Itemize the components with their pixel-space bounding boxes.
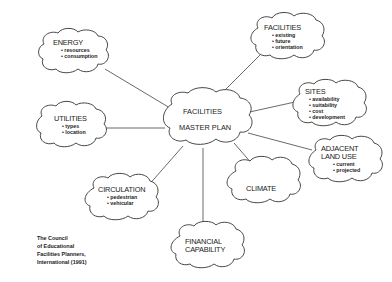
node-energy: ENERGY resources consumption: [53, 39, 98, 59]
center-title-line1: FACILITIES: [183, 107, 222, 116]
list-item: consumption: [61, 53, 98, 59]
link-energy: [105, 69, 170, 108]
node-energy-items: resources consumption: [53, 47, 98, 59]
list-item: location: [62, 129, 87, 135]
link-circulation: [147, 146, 183, 187]
node-adjacent-items: current projected: [321, 161, 360, 173]
node-utilities: UTILITIES types location: [54, 115, 87, 135]
node-utilities-items: types location: [54, 123, 87, 135]
list-item: orientation: [272, 44, 303, 50]
node-circulation: CIRCULATION pedestrian vehicular: [98, 186, 145, 206]
node-financial-capability: FINANCIAL CAPABILITY: [185, 238, 225, 254]
node-utilities-title: UTILITIES: [54, 115, 87, 123]
link-adjacent: [248, 133, 312, 150]
node-facilities: FACILITIES existing future orientation: [264, 24, 303, 50]
list-item: development: [309, 114, 345, 120]
node-sites-title: SITES: [305, 88, 345, 96]
source-credit: The Council of Educational Facilities Pl…: [37, 234, 86, 266]
credit-line: International (1991): [37, 258, 86, 266]
cloud-climate: [227, 156, 300, 202]
node-circulation-items: pedestrian vehicular: [98, 194, 145, 206]
list-item: projected: [333, 167, 360, 173]
node-energy-title: ENERGY: [53, 39, 98, 47]
credit-line: of Educational: [37, 242, 86, 250]
node-financial-title-line2: CAPABILITY: [185, 246, 225, 254]
link-sites: [245, 102, 295, 113]
node-circulation-title: CIRCULATION: [98, 186, 145, 194]
node-sites: SITES availability suitability cost deve…: [305, 88, 345, 120]
cloud-center: [163, 88, 252, 145]
credit-line: Facilities Planners,: [37, 250, 86, 258]
node-facilities-title: FACILITIES: [264, 24, 303, 32]
node-facilities-items: existing future orientation: [264, 32, 303, 50]
center-title-line2: MASTER PLAN: [179, 123, 231, 132]
list-item: vehicular: [107, 200, 145, 206]
credit-line: The Council: [37, 234, 86, 242]
node-adjacent-land-use: ADJACENT LAND USE current projected: [321, 145, 360, 173]
node-adjacent-title-line2: LAND USE: [321, 153, 360, 161]
node-climate-title: CLIMATE: [246, 185, 276, 193]
node-sites-items: availability suitability cost developmen…: [305, 96, 345, 120]
